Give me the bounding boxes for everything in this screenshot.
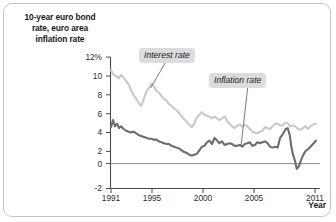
y-tick-label-12: 12% — [76, 52, 102, 62]
leader-line-interest — [151, 60, 168, 88]
chart-plot-area — [0, 0, 336, 222]
y-tick-label-6: 6 — [76, 109, 102, 119]
y-tick-label-10: 10 — [76, 71, 102, 81]
series-label-inflation-rate: Inflation rate — [209, 73, 266, 88]
x-tick-label-1995: 1995 — [135, 193, 169, 203]
chart-figure: 10-year euro bond rate, euro area inflat… — [0, 0, 336, 222]
series-line-inflation-rate — [111, 120, 316, 169]
x-axis-title: Year — [308, 200, 326, 210]
y-tick-label-8: 8 — [76, 90, 102, 100]
y-tick-label-4: 4 — [76, 127, 102, 137]
y-tick-label-minus2: -2 — [76, 183, 102, 193]
x-tick-label-2005: 2005 — [237, 193, 271, 203]
x-tick-label-1991: 1991 — [94, 193, 128, 203]
leader-line-inflation — [241, 85, 248, 146]
y-axis-ticks — [106, 57, 111, 188]
x-tick-label-2000: 2000 — [186, 193, 220, 203]
y-tick-label-2: 2 — [76, 146, 102, 156]
series-label-interest-rate: Interest rate — [139, 48, 195, 63]
y-tick-label-0: 0 — [76, 159, 102, 169]
